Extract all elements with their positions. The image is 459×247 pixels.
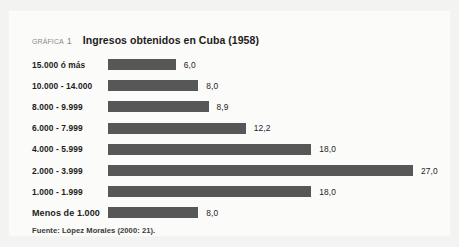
chart-value-label: 27,0: [421, 166, 438, 176]
chart-bar: [108, 101, 209, 112]
chart-bar: [108, 165, 413, 176]
figure-source-note: Fuente: López Morales (2000: 21).: [32, 226, 155, 235]
chart-category-label: 1.000 - 1.999: [32, 181, 104, 202]
chart-bar: [108, 207, 198, 218]
chart-bar: [108, 59, 176, 70]
chart-bar-area: 18,0: [108, 181, 432, 202]
chart-row: Menos de 1.0008,0: [32, 202, 432, 223]
chart-row: 2.000 - 3.99927,0: [32, 160, 432, 181]
chart-bar-area: 8,0: [108, 202, 432, 223]
chart-bar: [108, 123, 246, 134]
chart-row: 4.000 - 5.99918,0: [32, 139, 432, 160]
caption-kicker: gráfica: [32, 35, 64, 46]
figure-caption: gráfica 1 Ingresos obtenidos en Cuba (19…: [32, 34, 259, 48]
chart-row: 6.000 - 7.99912,2: [32, 118, 432, 139]
chart-value-label: 8,0: [206, 208, 218, 218]
chart-bar: [108, 144, 311, 155]
chart-category-label: 2.000 - 3.999: [32, 160, 104, 181]
chart-value-label: 18,0: [319, 187, 336, 197]
chart-row: 10.000 - 14.0008,0: [32, 75, 432, 96]
chart-value-label: 12,2: [254, 123, 271, 133]
chart-category-label: 15.000 ó más: [32, 54, 104, 75]
chart-bar-area: 8,9: [108, 96, 432, 117]
chart-row: 8.000 - 9.9998,9: [32, 96, 432, 117]
chart-row: 15.000 ó más6,0: [32, 54, 432, 75]
chart-bar-area: 8,0: [108, 75, 432, 96]
chart-bar-area: 12,2: [108, 118, 432, 139]
figure-panel: gráfica 1 Ingresos obtenidos en Cuba (19…: [8, 10, 451, 237]
caption-number: 1: [67, 36, 72, 46]
chart-category-label: 6.000 - 7.999: [32, 118, 104, 139]
chart-category-label: Menos de 1.000: [32, 202, 104, 223]
chart-value-label: 8,0: [206, 81, 218, 91]
chart-value-label: 6,0: [184, 60, 196, 70]
chart-value-label: 8,9: [217, 102, 229, 112]
chart-value-label: 18,0: [319, 144, 336, 154]
chart-category-label: 8.000 - 9.999: [32, 96, 104, 117]
page-title: Ingresos obtenidos en Cuba (1958): [83, 34, 259, 46]
chart-bar: [108, 80, 198, 91]
figure-screenshot: gráfica 1 Ingresos obtenidos en Cuba (19…: [0, 0, 459, 247]
chart-row: 1.000 - 1.99918,0: [32, 181, 432, 202]
chart-bar-area: 27,0: [108, 160, 432, 181]
chart-bar-area: 6,0: [108, 54, 432, 75]
chart-bar: [108, 186, 311, 197]
chart-bar-area: 18,0: [108, 139, 432, 160]
chart-category-label: 10.000 - 14.000: [32, 75, 104, 96]
chart-category-label: 4.000 - 5.999: [32, 139, 104, 160]
bar-chart-plot: 15.000 ó más6,010.000 - 14.0008,08.000 -…: [32, 54, 432, 224]
